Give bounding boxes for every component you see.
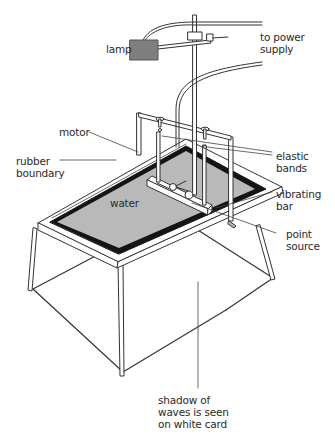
label-vibrating-bar: vibrating bar [276,188,321,212]
label-elastic-bands: elastic bands [276,150,309,174]
label-shadow: shadow of waves is seen on white card [158,394,229,430]
ripple-tank-diagram [0,0,335,436]
lamp [130,40,158,60]
label-lamp: lamp [106,43,131,55]
label-water: water [110,197,139,209]
label-power-supply: to power supply [260,31,305,55]
label-point-source: point source [286,228,320,252]
label-motor: motor [59,126,90,138]
label-rubber-boundary: rubber boundary [16,155,64,179]
